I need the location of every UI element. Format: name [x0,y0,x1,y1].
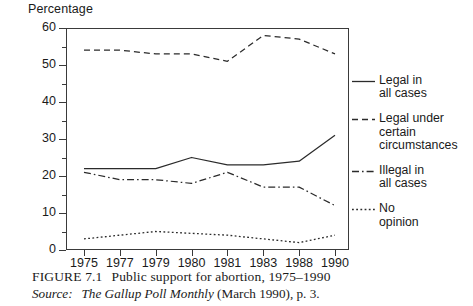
x-axis-tick-label: 1988 [279,256,319,270]
y-axis-label-wrap: 0 [0,243,56,255]
y-axis-tick-major [59,28,66,29]
chart-series-line [84,232,335,243]
source-rest: (March 1990), p. 3. [217,286,320,301]
chart-plot [66,28,349,250]
y-axis-tick-label: 40 [4,95,56,107]
caption-title-text: Public support for abortion, 1975–1990 [112,269,331,284]
y-axis-tick-label: 10 [4,206,56,218]
legend-line-sample-dashed [352,118,375,120]
x-axis-tick-label: 1980 [172,256,212,270]
y-axis-tick-major [59,250,66,251]
figure-caption: FIGURE 7.1Public support for abortion, 1… [32,269,452,302]
legend-line-sample-dotted [352,208,375,210]
y-axis-label-wrap: 50 [0,58,56,70]
y-axis-label-wrap: 20 [0,169,56,181]
legend-item-label: Illegal in all cases [379,164,473,190]
y-axis-tick-major [59,65,66,66]
y-axis-label-wrap: 40 [0,95,56,107]
figure-container: Percentage 01020304050601975197719791980… [0,0,473,306]
x-axis-tick-label: 1983 [243,256,283,270]
x-axis-tick-label: 1977 [100,256,140,270]
chart-series-line [84,135,335,168]
y-axis-tick-label: 20 [4,169,56,181]
y-axis-label-wrap: 10 [0,206,56,218]
y-axis-tick-label: 0 [4,243,56,255]
y-axis-label-wrap: 60 [0,21,56,33]
legend-item-label: No opinion [379,202,473,228]
y-axis-label-wrap: 30 [0,132,56,144]
y-axis-tick-major [59,139,66,140]
y-axis-tick-label: 50 [4,58,56,70]
y-axis-tick-major [59,176,66,177]
caption-title-line: FIGURE 7.1Public support for abortion, 1… [32,269,452,285]
legend-item-label: Legal in all cases [379,74,473,100]
chart-series-line [84,35,335,61]
y-axis-tick-label: 60 [4,21,56,33]
chart-series-line [84,172,335,205]
caption-figure-number: FIGURE 7.1 [32,269,103,284]
x-axis-tick-label: 1975 [64,256,104,270]
y-axis-title: Percentage [28,2,93,16]
y-axis-tick-label: 30 [4,132,56,144]
x-axis-tick-label: 1979 [136,256,176,270]
y-axis-tick-major [59,213,66,214]
legend-line-sample-dash-dot [352,170,375,172]
legend-line-sample-solid [352,80,375,82]
y-axis-tick-major [59,102,66,103]
legend-item-label: Legal under certain circumstances [379,112,473,152]
x-axis-tick-label: 1990 [315,256,355,270]
source-publication: The Gallup Poll Monthly [82,286,214,301]
x-axis-tick-label: 1981 [207,256,247,270]
caption-source-line: Source:The Gallup Poll Monthly (March 19… [32,286,452,302]
source-label: Source: [32,286,73,301]
